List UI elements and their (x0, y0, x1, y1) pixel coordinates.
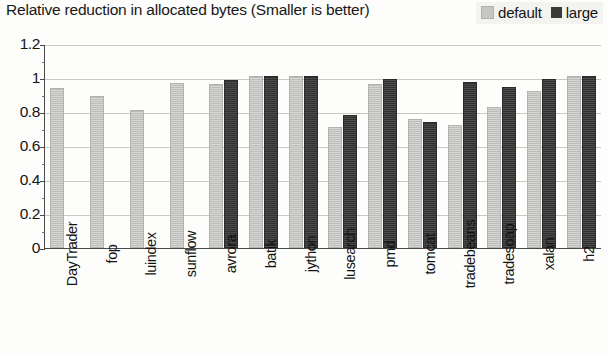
bar-group (244, 45, 284, 248)
bar-default (328, 127, 342, 248)
y-axis-tick-label: 0.4 (20, 171, 40, 189)
x-axis-tick-label: DayTrader (64, 222, 80, 286)
x-axis-tick-label: lusearch (342, 228, 358, 280)
x-axis-label-group: batik (243, 252, 283, 352)
legend-swatch-large (551, 7, 562, 18)
x-axis-tick-label: sunflow (183, 231, 199, 277)
bar-default (50, 88, 64, 248)
bar-group (85, 45, 125, 248)
bar-large (264, 76, 278, 248)
x-axis-tick-label: tradebeans (462, 220, 478, 289)
legend-label-default: default (498, 4, 542, 21)
chart-title: Relative reduction in allocated bytes (S… (6, 1, 369, 19)
x-axis-label-group: fop (84, 252, 124, 352)
bar-group (442, 45, 482, 248)
bar-group (164, 45, 204, 248)
x-axis-tick-label: pmd (382, 240, 398, 267)
x-axis-tick-label: luindex (143, 232, 159, 275)
x-axis-labels: DayTraderfopluindexsunflowavrorabatikjyt… (44, 252, 601, 352)
bar-default (487, 107, 501, 248)
bar-default (368, 84, 382, 248)
bar-group (283, 45, 323, 248)
bar-default (209, 84, 223, 248)
bar-group (482, 45, 522, 248)
x-axis-label-group: h2 (561, 252, 601, 352)
bar-large (582, 76, 596, 248)
bar-large (224, 80, 238, 248)
bar-group (204, 45, 244, 248)
chart-figure: Relative reduction in allocated bytes (S… (0, 0, 607, 355)
x-axis-tick-label: jython (303, 236, 319, 272)
plot-area (44, 45, 601, 249)
y-axis-labels: 00.20.40.60.811.2 (0, 45, 40, 249)
bar-group (402, 45, 442, 248)
bar-default (567, 76, 581, 248)
x-axis-label-group: tradesoap (482, 252, 522, 352)
bar-default (448, 125, 462, 248)
bar-group (561, 45, 601, 248)
x-axis-label-group: lusearch (322, 252, 362, 352)
x-axis-tick-label: tomcat (422, 233, 438, 274)
y-axis-tick-label: 1.2 (20, 35, 40, 53)
bar-group (522, 45, 562, 248)
x-axis-label-group: avrora (203, 252, 243, 352)
x-axis-label-group: tomcat (402, 252, 442, 352)
bar-group (323, 45, 363, 248)
bar-large (542, 79, 556, 248)
x-axis-label-group: DayTrader (44, 252, 84, 352)
y-axis-tick-label: 0.8 (20, 103, 40, 121)
bar-large (304, 76, 318, 248)
chart-legend: default large (476, 2, 603, 24)
x-axis-label-group: luindex (124, 252, 164, 352)
bar-default (130, 110, 144, 248)
legend-swatch-default (481, 6, 494, 19)
bar-default (289, 76, 303, 248)
bar-series-container (45, 45, 601, 248)
bar-default (249, 76, 263, 248)
x-axis-tick-label: fop (104, 245, 120, 264)
bar-group (124, 45, 164, 248)
bar-default (90, 96, 104, 248)
x-axis-tick-label: xalan (541, 238, 557, 271)
x-axis-tick-label: batik (263, 240, 279, 269)
bar-default (527, 91, 541, 248)
bar-group (363, 45, 403, 248)
x-axis-tick-label: h2 (581, 246, 597, 261)
x-axis-label-group: pmd (362, 252, 402, 352)
bar-large (383, 79, 397, 248)
y-axis-tick (40, 249, 45, 250)
y-axis-tick-label: 1 (32, 69, 40, 87)
y-axis-tick-label: 0.2 (20, 205, 40, 223)
x-axis-label-group: xalan (521, 252, 561, 352)
x-axis-label-group: sunflow (163, 252, 203, 352)
bar-default (408, 119, 422, 249)
bar-default (170, 83, 184, 248)
y-axis-tick-label: 0.6 (20, 137, 40, 155)
legend-item-default: default (481, 4, 542, 21)
y-axis-tick-label: 0 (32, 239, 40, 257)
legend-item-large: large (551, 4, 598, 21)
x-axis-label-group: tradebeans (442, 252, 482, 352)
x-axis-tick-label: tradesoap (501, 224, 517, 285)
bar-large (423, 122, 437, 248)
legend-label-large: large (566, 4, 598, 21)
bar-group (45, 45, 85, 248)
x-axis-tick-label: avrora (223, 235, 239, 274)
x-axis-label-group: jython (283, 252, 323, 352)
